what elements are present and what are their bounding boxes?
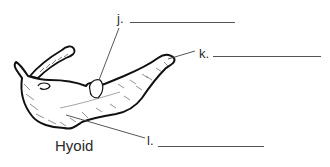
leader-line-k [168, 51, 195, 59]
answer-blank-j[interactable] [130, 22, 235, 23]
figure-caption: Hyoid [55, 138, 93, 153]
answer-blank-k[interactable] [213, 56, 321, 57]
leader-line-j [99, 28, 119, 80]
answer-blank-l[interactable] [158, 146, 264, 147]
label-k: k. [199, 47, 209, 60]
label-j: j. [117, 12, 124, 25]
greater-horn-back [30, 46, 75, 78]
label-l: l. [147, 134, 154, 147]
hyoid-bone-illustration [0, 0, 330, 167]
leader-line-l [66, 115, 145, 138]
